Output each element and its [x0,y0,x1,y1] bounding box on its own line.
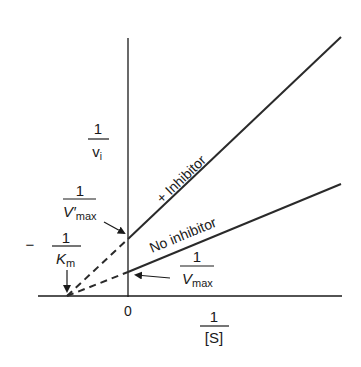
vmax-label-numerator: 1 [193,248,201,265]
km-label-denominator: Km [56,250,75,269]
x-axis-label-denominator: [S] [205,329,223,346]
vmax-prime-arrow [104,222,124,233]
vmax-prime-label-numerator: 1 [76,182,84,199]
y-axis-label-numerator: 1 [94,120,102,137]
origin-label: 0 [124,303,132,319]
vmax-label-denominator: Vmax [182,270,213,289]
y-axis-label-denominator: vi [92,143,102,162]
no-inhibitor-line-dashed [67,272,128,296]
vmax-arrow [136,275,170,278]
lineweaver-burk-chart: 1 vi 1 [S] 0 + Inhibitor No inhibitor 1 … [0,0,361,367]
vmax-prime-label-denominator: V′max [63,203,97,222]
inhibitor-label: + Inhibitor [153,152,209,206]
km-label-numerator: 1 [62,229,70,246]
x-axis-label-numerator: 1 [210,308,218,325]
inhibitor-line-dashed [67,239,128,296]
km-minus-sign: − [26,236,35,253]
inhibitor-line [128,37,341,239]
